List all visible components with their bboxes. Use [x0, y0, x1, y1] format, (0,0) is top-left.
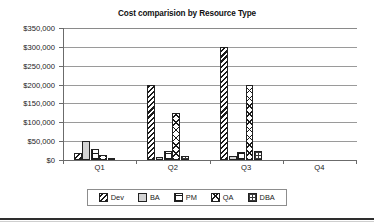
bar-dev-q2	[147, 85, 155, 160]
chart-container: Cost comparision by Resource Type $0$50,…	[0, 0, 374, 224]
y-axis-tick	[59, 141, 63, 142]
plot-area	[63, 28, 357, 161]
y-axis-tick	[59, 47, 63, 48]
bar-dba-q1	[108, 158, 116, 160]
y-axis-tick-label: $150,000	[23, 99, 55, 108]
legend-label: Dev	[111, 194, 124, 201]
y-axis-tick-label: $0	[47, 156, 55, 165]
gridline	[64, 28, 357, 29]
gridline	[64, 122, 357, 123]
x-axis-tick-label: Q3	[241, 163, 251, 172]
gridline	[64, 141, 357, 142]
y-axis: $0$50,000$100,000$150,000$200,000$250,00…	[0, 0, 59, 224]
bar-qa-q3	[246, 85, 254, 160]
legend-label: BA	[150, 194, 160, 201]
bottom-divider-thin	[0, 221, 374, 222]
x-axis-tick	[283, 160, 284, 164]
y-axis-tick	[59, 103, 63, 104]
bar-dba-q2	[181, 156, 189, 160]
legend-swatch-pm-icon	[174, 193, 183, 202]
legend-swatch-dba-icon	[248, 193, 257, 202]
legend-label: QA	[223, 194, 234, 201]
y-axis-tick-label: $100,000	[23, 118, 55, 127]
gridline	[64, 103, 357, 104]
bar-dev-q3	[220, 47, 228, 160]
plot-inner	[64, 28, 357, 160]
y-axis-tick	[59, 85, 63, 86]
y-axis-tick	[59, 122, 63, 123]
x-axis-tick-label: Q1	[95, 163, 105, 172]
y-axis-tick-label: $300,000	[23, 42, 55, 51]
legend-item-dev[interactable]: Dev	[99, 193, 124, 202]
legend-swatch-ba-icon	[138, 193, 147, 202]
chart-legend: DevBAPMQADBA	[87, 189, 287, 206]
bar-ba-q1	[82, 141, 90, 160]
gridline	[64, 66, 357, 67]
y-axis-tick-label: $250,000	[23, 61, 55, 70]
x-axis-tick	[356, 160, 357, 164]
x-axis-tick	[63, 160, 64, 164]
legend-item-qa[interactable]: QA	[211, 193, 233, 202]
y-axis-tick-label: $350,000	[23, 24, 55, 33]
legend-item-dba[interactable]: DBA	[248, 193, 275, 202]
bar-dev-q1	[74, 153, 82, 160]
bar-pm-q2	[164, 151, 172, 160]
bar-dba-q3	[254, 151, 262, 160]
x-axis-tick-label: Q2	[168, 163, 178, 172]
legend-label: PM	[186, 194, 197, 201]
y-axis-tick	[59, 66, 63, 67]
y-axis-tick	[59, 28, 63, 29]
bar-ba-q2	[156, 157, 164, 160]
bar-pm-q3	[237, 152, 245, 160]
legend-label: DBA	[260, 194, 275, 201]
bar-pm-q1	[91, 149, 99, 160]
legend-item-pm[interactable]: PM	[174, 193, 197, 202]
legend-item-ba[interactable]: BA	[138, 193, 159, 202]
bar-ba-q3	[229, 156, 237, 160]
gridline	[64, 47, 357, 48]
x-axis: Q1Q2Q3Q4	[63, 163, 356, 179]
bar-qa-q2	[172, 113, 180, 160]
y-axis-tick-label: $200,000	[23, 80, 55, 89]
bottom-divider	[0, 218, 374, 220]
x-axis-tick	[136, 160, 137, 164]
legend-swatch-qa-icon	[211, 193, 220, 202]
gridline	[64, 85, 357, 86]
x-axis-tick-label: Q4	[314, 163, 324, 172]
x-axis-tick	[210, 160, 211, 164]
y-axis-tick-label: $50,000	[28, 137, 55, 146]
bar-qa-q1	[99, 155, 107, 160]
legend-swatch-dev-icon	[99, 193, 108, 202]
